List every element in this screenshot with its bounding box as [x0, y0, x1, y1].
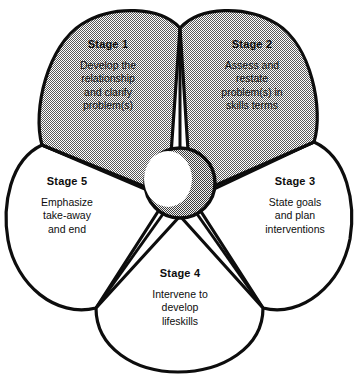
- stage-3-title: Stage 3: [243, 176, 347, 187]
- stage-1-line-3: and clarify: [52, 86, 164, 99]
- stage-5-line-3: and end: [15, 223, 119, 236]
- stage-4-line-3: lifeskills: [128, 315, 232, 328]
- hub-highlight-crescent: [144, 151, 192, 207]
- stage-5-title: Stage 5: [15, 176, 119, 187]
- stage-1-line-2: relationship: [52, 72, 164, 85]
- stage-2-description: Assess and restate problem(s) in skills …: [196, 59, 308, 113]
- stage-1-description: Develop the relationship and clarify pro…: [52, 59, 164, 113]
- stage-3-line-3: interventions: [243, 223, 347, 236]
- stage-5-line-1: Emphasize: [15, 196, 119, 209]
- stage-2-line-2: restate: [196, 72, 308, 85]
- stage-4-title: Stage 4: [128, 268, 232, 279]
- stage-1-line-4: problem(s): [52, 99, 164, 112]
- stage-2-line-3: problem(s) in: [196, 86, 308, 99]
- stage-4-line-2: develop: [128, 301, 232, 314]
- stage-3-description: State goals and plan interventions: [243, 196, 347, 236]
- stage-1-label: Stage 1 Develop the relationship and cla…: [52, 39, 164, 113]
- stage-1-line-1: Develop the: [52, 59, 164, 72]
- stage-2-line-1: Assess and: [196, 59, 308, 72]
- stage-2-line-4: skills terms: [196, 99, 308, 112]
- stage-4-description: Intervene to develop lifeskills: [128, 288, 232, 328]
- stage-2-title: Stage 2: [196, 39, 308, 50]
- stage-3-line-1: State goals: [243, 196, 347, 209]
- stage-2-label: Stage 2 Assess and restate problem(s) in…: [196, 39, 308, 113]
- stage-3-label: Stage 3 State goals and plan interventio…: [243, 176, 347, 236]
- stage-5-label: Stage 5 Emphasize take-away and end: [15, 176, 119, 236]
- stage-1-title: Stage 1: [52, 39, 164, 50]
- stage-5-line-2: take-away: [15, 209, 119, 222]
- stage-3-line-2: and plan: [243, 209, 347, 222]
- stage-4-label: Stage 4 Intervene to develop lifeskills: [128, 268, 232, 328]
- stage-5-description: Emphasize take-away and end: [15, 196, 119, 236]
- stage-4-line-1: Intervene to: [128, 288, 232, 301]
- five-stage-diagram: Stage 1 Develop the relationship and cla…: [0, 0, 359, 375]
